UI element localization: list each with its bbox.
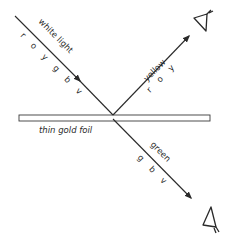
foil-label: thin gold foil bbox=[39, 125, 93, 135]
incident-colors: r o y g b v bbox=[19, 30, 88, 99]
transmitted-ray bbox=[113, 119, 191, 198]
eye-icon-reflected bbox=[194, 10, 213, 31]
incident-ray bbox=[78, 79, 113, 115]
eye-icon-transmitted bbox=[203, 207, 219, 233]
gold-foil-diagram: white light r o y g b v yellow r o y gre… bbox=[0, 0, 232, 238]
transmitted-label: green bbox=[149, 139, 173, 163]
